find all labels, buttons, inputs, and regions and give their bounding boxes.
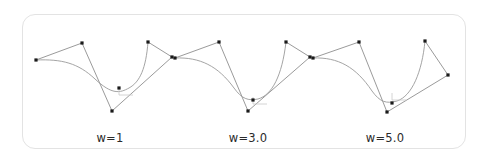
panel-label-1: w=1: [97, 131, 124, 145]
panel-label-3: w=5.0: [366, 131, 404, 145]
panel-label-2: w=3.0: [229, 131, 267, 145]
figure-card: [22, 14, 466, 149]
figure-root: w=1 w=3.0 w=5.0: [0, 0, 486, 168]
